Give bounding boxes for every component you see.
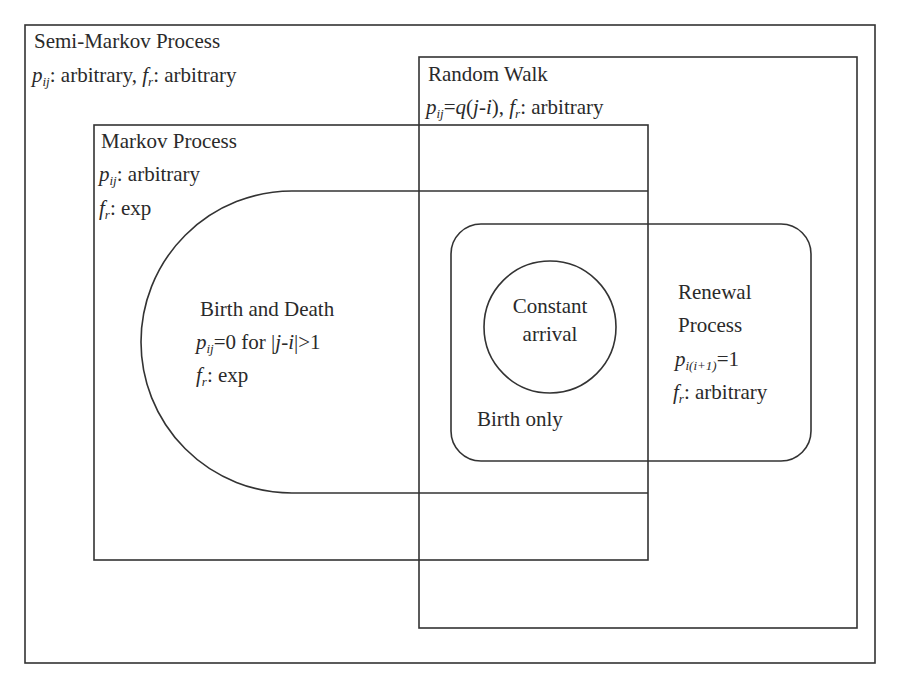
renewal-p-param: pi(i+1)=1 [675, 346, 739, 373]
paren: ), [492, 95, 504, 119]
constant-arrival-line1: Constant [484, 293, 616, 320]
f-value: : exp [207, 363, 248, 387]
p-symbol: p [32, 63, 43, 87]
semi-markov-params: pij: arbitrary, fr: arbitrary [32, 62, 237, 89]
renewal-title-line1: Renewal [678, 279, 751, 306]
markov-title: Markov Process [101, 128, 237, 155]
f-value: : exp [110, 196, 151, 220]
markov-f-param: fr: exp [99, 195, 151, 222]
p-value: =0 for | [214, 330, 276, 354]
p-subscript: ij [437, 106, 444, 121]
renewal-f-param: fr: arbitrary [673, 379, 767, 406]
p-symbol: p [196, 330, 207, 354]
p-value: : arbitrary, [50, 63, 137, 87]
p-subscript: ij [207, 341, 214, 356]
renewal-title-line2: Process [678, 312, 742, 339]
p-value: : arbitrary [117, 162, 200, 186]
random-walk-title: Random Walk [428, 61, 548, 88]
birth-only-title: Birth only [477, 406, 563, 433]
p-subscript: ij [43, 74, 50, 89]
q-symbol: q [456, 95, 467, 119]
f-value: : arbitrary [153, 63, 236, 87]
p-symbol: p [675, 347, 686, 371]
p-value: =1 [717, 347, 739, 371]
markov-p-param: pij: arbitrary [99, 161, 200, 188]
constant-arrival-line2: arrival [484, 321, 616, 348]
f-value: : arbitrary [684, 380, 767, 404]
equals: = [444, 95, 456, 119]
p-subscript: i(i+1) [686, 358, 717, 373]
f-value: : arbitrary [520, 95, 603, 119]
p-symbol: p [99, 162, 110, 186]
birth-death-p-param: pij=0 for |j-i|>1 [196, 329, 321, 356]
birth-death-title: Birth and Death [200, 296, 334, 323]
p-condition: |>1 [294, 330, 321, 354]
semi-markov-title: Semi-Markov Process [34, 28, 220, 55]
p-symbol: p [426, 95, 437, 119]
birth-death-f-param: fr: exp [196, 362, 248, 389]
minus: - [479, 95, 486, 119]
random-walk-params: pij=q(j-i), fr: arbitrary [426, 94, 604, 121]
p-subscript: ij [110, 173, 117, 188]
